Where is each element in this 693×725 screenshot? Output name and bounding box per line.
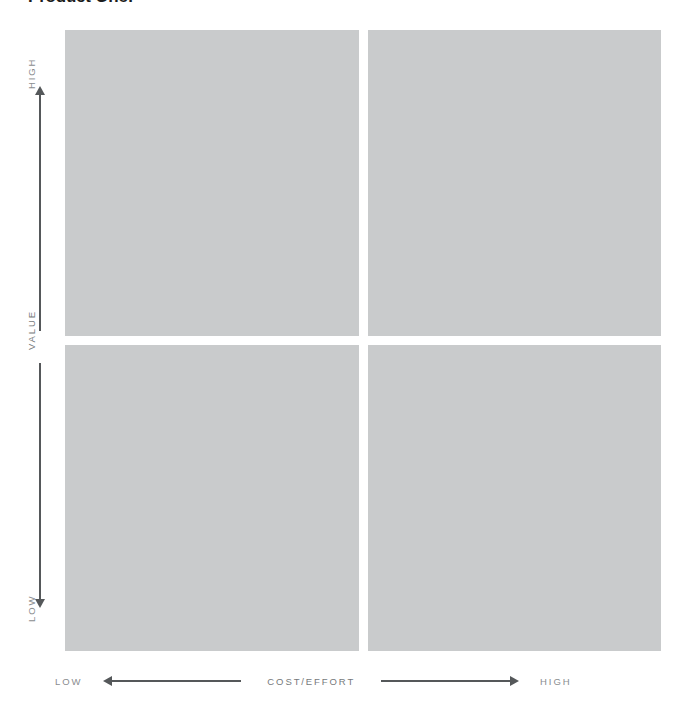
cost-effort-axis: LOW COST/EFFORT HIGH [55,670,655,692]
value-axis-up-arrow-icon [39,94,41,331]
matrix-grid [65,30,661,651]
value-axis-low-label: LOW [26,587,56,629]
cost-axis-title: COST/EFFORT [267,676,355,687]
quadrant-bottom-right[interactable] [368,345,662,651]
cost-axis-low-label: LOW [55,676,82,687]
cost-axis-right-arrow-icon [381,680,511,682]
arrow-head-left-icon [103,676,112,686]
arrow-head-right-icon [510,676,519,686]
quadrant-top-left[interactable] [65,30,359,336]
cost-axis-left-arrow-icon [111,680,241,682]
cost-axis-high-label: HIGH [540,676,571,687]
arrow-head-up-icon [35,86,45,95]
value-axis: HIGH VALUE LOW [26,30,56,651]
quadrant-bottom-left[interactable] [65,345,359,651]
quadrant-top-right[interactable] [368,30,662,336]
page-title: Product One: [28,0,133,7]
value-axis-down-arrow-icon [39,363,41,600]
value-axis-title: VALUE [26,300,56,360]
